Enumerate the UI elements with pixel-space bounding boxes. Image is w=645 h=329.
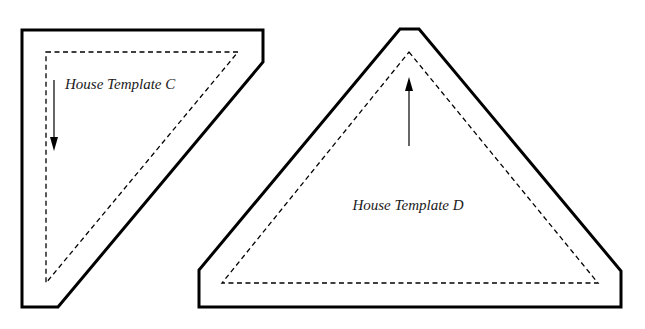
template-c-arrowhead-icon	[50, 137, 58, 151]
template-c-cut-line	[22, 30, 263, 307]
template-d-arrowhead-icon	[405, 77, 413, 91]
template-c: House Template C	[22, 30, 263, 307]
template-c-label: House Template C	[64, 76, 176, 92]
template-d-label: House Template D	[351, 197, 463, 213]
template-d-cut-line	[199, 29, 621, 307]
template-d: House Template D	[199, 29, 621, 307]
pattern-diagram: House Template C House Template D	[0, 0, 645, 329]
